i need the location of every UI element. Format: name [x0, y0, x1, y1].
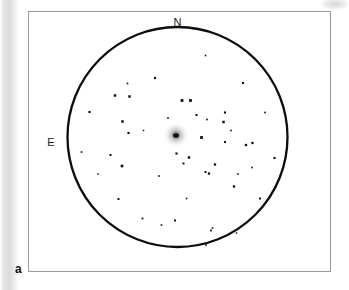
star-point — [189, 99, 192, 102]
star-point — [237, 173, 239, 175]
star-point — [183, 163, 185, 165]
star-point — [210, 230, 212, 232]
star-point — [127, 83, 129, 85]
star-point — [251, 142, 253, 144]
star-point — [118, 198, 120, 200]
star-point — [224, 111, 226, 113]
star-point — [127, 132, 129, 134]
star-point — [205, 171, 207, 173]
figure-panel: N E a — [0, 0, 349, 290]
star-point — [200, 136, 203, 139]
star-point — [196, 114, 198, 116]
star-point — [233, 185, 235, 187]
star-point — [206, 119, 208, 121]
star-point — [259, 198, 261, 200]
star-point — [205, 55, 207, 57]
star-point — [181, 99, 184, 102]
star-point — [205, 244, 207, 246]
star-point-sources — [81, 55, 276, 246]
star-point — [264, 112, 266, 114]
star-point — [81, 151, 83, 153]
central-galaxy-marker — [163, 122, 190, 149]
star-point — [114, 94, 116, 96]
star-point — [245, 144, 247, 146]
star-point — [167, 117, 169, 119]
sky-field-plot: N E — [0, 0, 349, 290]
star-point — [143, 130, 144, 131]
star-point — [214, 163, 216, 165]
star-point — [161, 224, 163, 226]
star-point — [142, 218, 144, 220]
star-point — [121, 165, 124, 168]
star-point — [174, 220, 176, 222]
star-point — [97, 173, 98, 174]
star-point — [188, 156, 190, 158]
panel-label-a: a — [15, 262, 22, 276]
star-point — [224, 141, 226, 143]
north-direction-label: N — [174, 16, 182, 28]
star-point — [273, 157, 275, 159]
star-point — [154, 77, 156, 79]
star-point — [175, 152, 177, 154]
star-point — [242, 82, 244, 84]
star-point — [128, 95, 130, 97]
star-point — [236, 232, 237, 233]
star-point — [222, 121, 224, 123]
star-point — [212, 227, 214, 229]
star-point — [88, 111, 90, 113]
star-point — [186, 198, 188, 200]
star-point — [251, 167, 253, 169]
east-direction-label: E — [47, 136, 54, 148]
star-point — [230, 130, 232, 132]
star-point — [158, 175, 160, 177]
star-point — [110, 154, 112, 156]
star-point — [208, 172, 210, 174]
star-point — [121, 120, 123, 122]
